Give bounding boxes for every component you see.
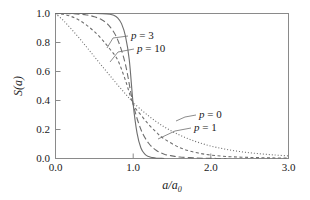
annotation-p0-value: = 0: [205, 108, 223, 120]
curve-annotations: p = 3 p = 10 p = 0 p = 1: [130, 29, 222, 133]
annotation-p10-value: = 10: [143, 42, 166, 54]
annotation-p0: p = 0: [198, 108, 222, 120]
leader-line-p0: [176, 115, 196, 121]
line-chart: 0.0 1.0 2.0 3.0 0.0 0.2 0.4 0.6 0.8 1.0 …: [0, 0, 310, 200]
x-tick-label: 2.0: [204, 161, 218, 173]
plot-frame: [56, 14, 289, 159]
x-tick-label: 1.0: [126, 161, 140, 173]
y-tick-label: 0.2: [36, 123, 50, 135]
y-tick-labels: 0.0 0.2 0.4 0.6 0.8 1.0: [36, 7, 50, 164]
annotation-p3-value: = 3: [137, 29, 155, 41]
figure-container: 0.0 1.0 2.0 3.0 0.0 0.2 0.4 0.6 0.8 1.0 …: [0, 0, 310, 200]
x-tick-label: 3.0: [282, 161, 296, 173]
y-axis-ticks: [56, 14, 61, 159]
curve-p1: [56, 14, 289, 159]
y-tick-label: 0.4: [36, 94, 50, 106]
x-tick-labels: 0.0 1.0 2.0 3.0: [49, 161, 296, 173]
curve-p0: [56, 14, 289, 156]
leader-line-p10: [110, 49, 134, 62]
svg-text:S(a): S(a): [11, 76, 25, 96]
leader-line-p1: [158, 128, 191, 139]
annotation-p3: p = 3: [130, 29, 154, 41]
x-axis-title: a/a0: [162, 178, 181, 194]
annotation-p1-value: = 1: [200, 121, 217, 133]
x-axis-title-subscript: 0: [178, 185, 182, 194]
curve-group: [56, 13, 289, 158]
y-tick-label: 0.6: [36, 65, 50, 77]
annotation-p10: p = 10: [136, 42, 166, 54]
x-tick-label: 0.0: [49, 161, 63, 173]
leader-line-p3: [107, 36, 128, 48]
annotation-p1: p = 1: [193, 121, 217, 133]
y-tick-label: 0.0: [36, 152, 50, 164]
y-tick-label: 0.8: [36, 36, 50, 48]
y-axis-title: S(a): [11, 76, 25, 96]
y-axis-title-close: ): [11, 76, 25, 81]
y-tick-label: 1.0: [36, 7, 50, 19]
